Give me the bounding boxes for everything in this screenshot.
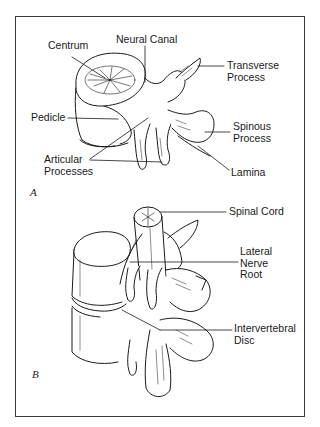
label-disc-line1: Intervertebral bbox=[234, 323, 296, 335]
label-disc-line2: Disc bbox=[234, 335, 296, 347]
panel-label-a: A bbox=[30, 186, 37, 198]
label-transverse-line1: Transverse bbox=[227, 60, 279, 72]
label-neural-canal: Neural Canal bbox=[116, 34, 177, 46]
vertebra-b-drawing bbox=[72, 207, 213, 397]
label-articular-processes: Articular Processes bbox=[44, 154, 93, 177]
label-spinal-cord: Spinal Cord bbox=[229, 206, 284, 218]
label-articular-line1: Articular bbox=[44, 154, 93, 166]
label-spinous-line2: Process bbox=[233, 133, 271, 145]
label-lateral-nerve-root: Lateral Nerve Root bbox=[240, 246, 272, 281]
panel-label-b: B bbox=[32, 368, 39, 380]
label-nerve-line3: Root bbox=[240, 269, 272, 281]
label-centrum: Centrum bbox=[48, 40, 88, 52]
label-transverse-line2: Process bbox=[227, 72, 279, 84]
label-spinous-line1: Spinous bbox=[233, 121, 271, 133]
label-articular-line2: Processes bbox=[44, 166, 93, 178]
label-pedicle: Pedicle bbox=[31, 112, 65, 124]
label-nerve-line1: Lateral bbox=[240, 246, 272, 258]
label-intervertebral-disc: Intervertebral Disc bbox=[234, 323, 296, 346]
label-spinous-process: Spinous Process bbox=[233, 121, 271, 144]
label-transverse-process: Transverse Process bbox=[227, 60, 279, 83]
label-lamina: Lamina bbox=[231, 167, 265, 179]
